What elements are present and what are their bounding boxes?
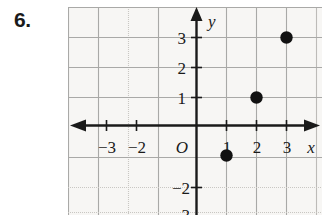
x-tick-label-3: 3	[283, 138, 292, 157]
problem-number-label: 6.	[14, 8, 31, 32]
x-tick-label-2: 2	[253, 138, 262, 157]
y-tick-label-minus-3-cropped: −3	[172, 206, 190, 215]
y-tick-label-3: 3	[178, 29, 187, 48]
y-axis-name-label: y	[206, 12, 216, 31]
origin-label: O	[176, 138, 188, 157]
data-point[interactable]	[250, 91, 262, 103]
graph-svg: 3 2 1 −2 −3 −2 1 2 3 O y x −3	[68, 7, 322, 215]
y-tick-label-minus-2: −2	[172, 179, 190, 198]
x-tick-label-minus-2: −2	[128, 138, 146, 157]
worksheet-page: 6.	[0, 0, 335, 215]
y-tick-label-1: 1	[178, 89, 187, 108]
y-tick-label-2: 2	[178, 59, 187, 78]
x-tick-label-minus-3: −3	[98, 138, 116, 157]
data-point[interactable]	[220, 149, 232, 161]
x-axis-name-label: x	[306, 138, 315, 157]
coordinate-grid-graph: 3 2 1 −2 −3 −2 1 2 3 O y x −3	[68, 7, 322, 215]
data-point[interactable]	[280, 31, 292, 43]
